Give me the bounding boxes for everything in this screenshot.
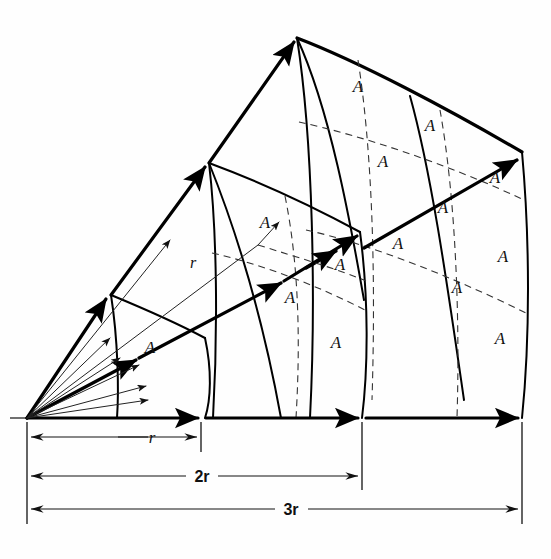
dimension-3r-group: 3r — [31, 501, 518, 518]
radius-callout-group — [27, 222, 366, 418]
shell-2-right-arc — [360, 232, 367, 418]
area-label-s3-4: A — [489, 168, 501, 187]
area-label-s3-8: A — [451, 278, 463, 297]
area-label-s2-3: A — [284, 288, 296, 307]
shell-3-meridian-2 — [410, 96, 464, 400]
ray-upper-segment-2 — [111, 167, 205, 295]
area-label-s3-3: A — [377, 152, 389, 171]
shell-1-right-arc — [205, 338, 210, 418]
area-label-s2-1: A — [259, 213, 271, 232]
dimension-2r-group: 2r — [31, 468, 358, 485]
dimension-r-label: r — [149, 428, 156, 447]
area-label-s3-7: A — [497, 247, 509, 266]
shell-3-dashed-meridian-2 — [440, 110, 458, 418]
inverse-square-law-diagram: r 2r 3r r A A A A A A A A A A A A — [0, 0, 551, 559]
shell-1-left-arc — [111, 295, 118, 418]
shell-3-group — [297, 38, 528, 418]
area-label-s2-2: A — [334, 255, 346, 274]
primary-rays-group — [27, 42, 518, 418]
dimension-2r-label: 2r — [194, 468, 209, 485]
dimension-3r-label: 3r — [283, 501, 298, 518]
fan-rays-group — [27, 240, 170, 418]
area-label-s3-2: A — [424, 116, 436, 135]
area-label-s3-6: A — [392, 234, 404, 253]
area-label-s2-4: A — [330, 333, 342, 352]
shell-3-right-arc — [522, 152, 528, 418]
fan-ray-1 — [27, 338, 110, 418]
area-label-s3-5: A — [437, 198, 449, 217]
dimension-r-group: r — [31, 428, 197, 447]
area-label-s3-9: A — [494, 329, 506, 348]
figure-root: r 2r 3r r A A A A A A A A A A A A — [0, 0, 551, 559]
area-label-s3-1: A — [352, 77, 364, 96]
radius-line — [27, 245, 258, 418]
radius-label: r — [190, 254, 197, 271]
ray-upper-segment-3 — [209, 42, 294, 163]
shell-1-group — [111, 295, 210, 418]
fan-ray-2 — [27, 240, 170, 418]
shell-2-dashed-meridian — [285, 196, 298, 418]
area-label-s1-1: A — [144, 338, 156, 357]
shell-3-left-arc — [297, 38, 313, 418]
fan-ray-6 — [27, 358, 120, 418]
ray-middle-segment-1 — [27, 360, 136, 418]
ray-junction-short — [306, 251, 336, 268]
